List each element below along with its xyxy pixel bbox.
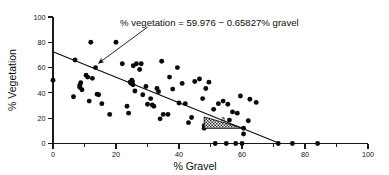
chart-canvas: 0 20 40 60 80 100 0 20 40 60 80 100 — [0, 0, 389, 175]
data-point — [225, 102, 230, 107]
y-tick-label: 80 — [38, 38, 46, 47]
data-point — [132, 89, 137, 94]
data-point — [148, 96, 153, 101]
data-point — [134, 61, 139, 66]
data-point — [221, 99, 226, 104]
regression-line — [53, 52, 280, 144]
data-point — [139, 61, 144, 66]
y-tick-label: 60 — [38, 63, 46, 72]
data-point — [151, 104, 156, 109]
data-point — [246, 118, 251, 123]
data-point — [125, 104, 130, 109]
data-point — [230, 109, 235, 114]
x-axis-ticks — [53, 144, 368, 150]
data-point — [241, 132, 246, 137]
data-point — [170, 87, 175, 92]
data-point — [290, 141, 295, 146]
data-point — [238, 94, 243, 99]
data-point — [51, 78, 56, 83]
data-point — [85, 75, 90, 80]
y-tick-label: 100 — [34, 13, 46, 22]
data-point — [213, 141, 218, 146]
data-point — [315, 141, 320, 146]
data-point — [120, 61, 125, 66]
data-points-layer — [51, 40, 321, 146]
x-tick-label: 20 — [112, 150, 120, 159]
data-point — [189, 115, 194, 120]
data-point — [96, 92, 101, 97]
data-point — [240, 141, 245, 146]
x-tick-label: 100 — [362, 150, 374, 159]
data-point — [167, 75, 172, 80]
data-point — [90, 76, 95, 81]
data-point — [158, 116, 163, 121]
x-tick-label: 40 — [175, 150, 183, 159]
x-axis-title: % Gravel — [173, 160, 216, 172]
y-tick-label: 20 — [38, 114, 46, 123]
data-point — [126, 111, 131, 116]
data-point — [145, 102, 150, 107]
y-axis-tick-labels: 0 20 40 60 80 100 — [34, 13, 46, 149]
data-point — [107, 112, 112, 117]
x-axis-tick-labels: 0 20 40 60 80 100 — [51, 150, 374, 159]
data-point — [99, 101, 104, 106]
regression-equation-label: % vegetation = 59.976 − 0.65827% gravel — [120, 17, 299, 28]
data-point — [224, 141, 229, 146]
data-point — [159, 59, 164, 64]
data-point — [180, 81, 185, 86]
data-point — [254, 100, 259, 105]
data-point — [71, 94, 76, 99]
data-point — [78, 80, 83, 85]
data-point — [197, 77, 202, 82]
data-point — [186, 120, 191, 125]
data-point — [235, 111, 240, 116]
data-point — [161, 112, 166, 117]
data-point — [206, 80, 211, 85]
data-point — [80, 87, 85, 92]
data-point — [175, 65, 180, 70]
region-a-label: a — [221, 115, 225, 122]
data-point — [200, 96, 205, 101]
y-tick-label: 40 — [38, 89, 46, 98]
regression-line-layer — [53, 52, 280, 144]
data-point — [233, 141, 238, 146]
x-tick-label: 80 — [301, 150, 309, 159]
data-point — [216, 101, 221, 106]
scatter-plot-figure: 0 20 40 60 80 100 0 20 40 60 80 100 — [0, 0, 389, 175]
data-point — [203, 86, 208, 91]
data-point — [211, 107, 216, 112]
data-point — [166, 112, 171, 117]
x-tick-label: 60 — [238, 150, 246, 159]
data-point — [247, 97, 252, 102]
data-point — [114, 40, 119, 45]
y-axis-title: % Vegetation — [6, 49, 18, 111]
x-tick-label: 0 — [51, 150, 55, 159]
data-point — [87, 99, 92, 104]
data-point — [192, 79, 197, 84]
data-point — [137, 67, 142, 72]
data-point — [140, 92, 145, 97]
annotation-leader-line — [99, 27, 148, 63]
data-point — [88, 40, 93, 45]
y-tick-label: 0 — [42, 139, 46, 148]
